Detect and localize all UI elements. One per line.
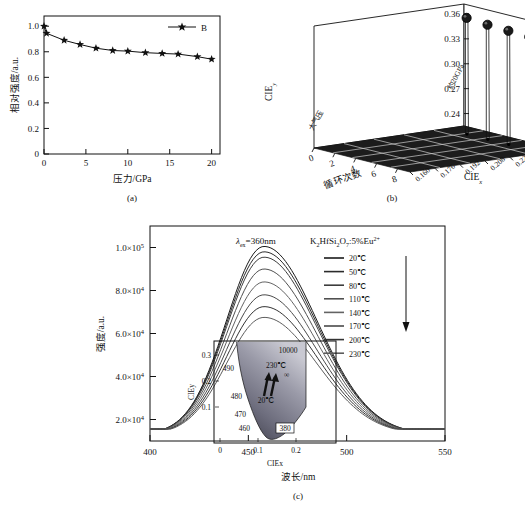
inset-label-infinity: ∞ (284, 370, 289, 379)
y-tick-label: 0.2 (28, 124, 39, 134)
panel-a-plot: 00.20.40.60.81.0 05101520 B 相对强度/a.u. 压力… (9, 16, 220, 203)
x-tick (354, 158, 356, 162)
z-tick (510, 157, 513, 160)
inset-wavelength-label: 490 (223, 364, 235, 373)
x-tick-label: 8 (391, 173, 399, 184)
x-tick (395, 169, 397, 173)
panel-c: 2.0×1044.0×1046.0×1048.0×1041.0×105 4004… (88, 212, 525, 506)
temperature-legend: 20℃50℃80℃110℃140℃170℃200℃230℃ (324, 254, 370, 358)
x-tick-label: 550 (438, 447, 452, 457)
data-point (504, 26, 513, 35)
y-tick-label: 0.24 (444, 109, 460, 119)
legend-label: 80℃ (349, 282, 366, 291)
sample-formula: K2HfSi2O7:5%Eu2+ (310, 236, 381, 248)
legend-label: 110℃ (349, 295, 370, 304)
panel-b-plot: 0.240.270.300.330.36 02468 0.1600.1760.1… (264, 4, 525, 203)
y-axis-ticks: 00.20.40.60.81.0 (28, 21, 49, 159)
panel-a: 00.20.40.60.81.0 05101520 B 相对强度/a.u. 压力… (0, 0, 258, 210)
panel-b: 0.240.270.300.330.36 02468 0.1600.1760.1… (258, 0, 525, 210)
panel-caption: (a) (127, 193, 137, 203)
data-point-highlight (464, 15, 467, 18)
z-tick (435, 168, 438, 171)
star-marker (208, 55, 216, 63)
legend-label: 230℃ (349, 350, 370, 359)
data-markers-b (40, 22, 216, 63)
inset-y-tick-label: 0.3 (202, 351, 212, 360)
star-marker (141, 48, 149, 56)
data-point-highlight (505, 28, 508, 31)
stem-line (468, 18, 469, 134)
y-tick-label: 8.0×104 (115, 284, 144, 296)
left-wall (314, 4, 464, 148)
data-point-highlight (484, 22, 487, 25)
star-marker (60, 36, 68, 44)
inset-x-tick-label: 0.2 (291, 446, 301, 455)
y-axis-label: CIEy (264, 83, 277, 101)
inset-wavelength-label: 480 (231, 392, 243, 401)
data-point (462, 13, 471, 22)
x-tick-label: 0 (42, 158, 47, 168)
inset-wavelength-label: 460 (239, 424, 251, 433)
star-marker (174, 50, 182, 58)
base-point (465, 132, 468, 135)
x-tick-label: 400 (143, 447, 157, 457)
legend-label: 20℃ (349, 254, 366, 263)
z-tick (460, 165, 463, 168)
x-tick-label: 0 (307, 153, 315, 164)
legend-label: B (201, 23, 207, 33)
excitation-label: λex=360nm (235, 236, 276, 248)
plot-frame (44, 16, 220, 154)
y-tick-label: 0.6 (28, 73, 40, 83)
y-tick-label: 4.0×104 (115, 370, 144, 382)
y-tick-label: 1.0×105 (115, 241, 144, 253)
z-axis-label: CIEx (464, 172, 482, 185)
star-marker (109, 46, 117, 54)
data-point (483, 20, 492, 29)
x-tick-label: 6 (370, 168, 378, 179)
y-tick-label: 6.0×104 (115, 327, 144, 339)
inset-label-top: 10000 (279, 346, 298, 355)
legend-label: 170℃ (349, 322, 370, 331)
x-tick-label: 2 (328, 158, 336, 169)
inset-y-tick-label: 0.1 (202, 403, 212, 412)
legend-label: 50℃ (349, 268, 366, 277)
inset-y-tick-label: 0.2 (202, 377, 212, 386)
x-tick-label: 5 (84, 158, 89, 168)
y-axis-label: 强度/a.u. (95, 316, 106, 352)
panel-c-plot: 2.0×1044.0×1046.0×1048.0×1041.0×105 4004… (95, 226, 452, 501)
y-tick-label: 2.0×104 (115, 413, 144, 425)
decreasing-intensity-arrow (403, 256, 410, 332)
y-tick-label: 0.4 (28, 98, 40, 108)
y-tick-label: 0.36 (444, 9, 460, 19)
x-tick-label: 10 (123, 158, 133, 168)
x-tick-label: 15 (165, 158, 175, 168)
y-tick-label: 1.0 (28, 21, 40, 31)
inset-wavelength-label: 470 (235, 410, 247, 419)
data-line-b (44, 26, 212, 59)
plot-walls (314, 4, 525, 150)
inset-x-tick-label: 0.1 (253, 446, 263, 455)
y-tick-label: 0 (35, 149, 40, 159)
y-axis-label: 相对强度/a.u. (9, 57, 20, 113)
panel-caption: (c) (293, 491, 303, 501)
star-marker (158, 49, 166, 57)
y-tick-label: 0.8 (28, 47, 40, 57)
x-tick-label: 20 (207, 158, 217, 168)
star-marker (92, 44, 100, 52)
inset-boxed-label: 380 (279, 424, 291, 433)
x-tick (375, 164, 377, 168)
star-marker (76, 40, 84, 48)
base-point (486, 138, 489, 141)
inset-x-axis-label: CIEx (267, 459, 283, 468)
x-axis-ticks: 05101520 (42, 149, 217, 168)
x-axis-label: 波长/nm (281, 471, 316, 482)
panel-caption: (b) (387, 193, 398, 203)
cie-inset: 0.10.20.3 00.10.2 490480470460 10000 230… (187, 335, 336, 468)
inset-label-cold: 20℃ (258, 396, 275, 405)
z-tick (410, 172, 413, 175)
x-tick (312, 148, 314, 152)
legend-label: 200℃ (349, 336, 370, 345)
x-axis-label: 循环次数 (322, 167, 363, 191)
inset-x-tick-label: 0 (218, 446, 222, 455)
z-tick (485, 161, 488, 164)
